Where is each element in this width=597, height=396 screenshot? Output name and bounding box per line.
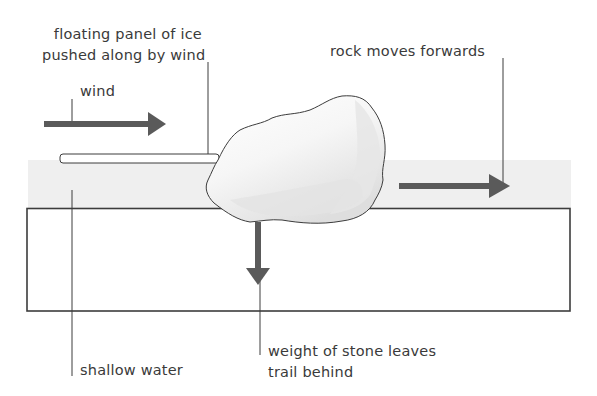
ice-panel-label-line2: pushed along by wind: [42, 45, 202, 66]
wind-arrow-icon: [44, 112, 166, 136]
ice-panel: [60, 154, 219, 163]
rock-moves-label: rock moves forwards: [330, 41, 485, 62]
rock-icon: [206, 96, 385, 223]
ice-panel-label-line1: floating panel of ice: [42, 24, 202, 45]
wind-label: wind: [80, 81, 115, 102]
weight-label-line1: weight of stone leaves: [268, 341, 436, 362]
lake-bed: [27, 209, 570, 312]
weight-label: weight of stone leaves trail behind: [268, 341, 436, 383]
weight-label-line2: trail behind: [268, 362, 436, 383]
ice-panel-label: floating panel of ice pushed along by wi…: [42, 24, 202, 66]
shallow-water-label: shallow water: [80, 360, 183, 381]
